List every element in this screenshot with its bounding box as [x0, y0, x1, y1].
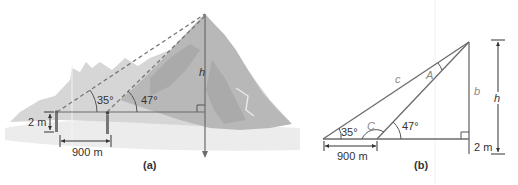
angle-arc-A: [438, 63, 442, 70]
observer-2-head: [106, 111, 110, 115]
height-label-a: h: [199, 66, 205, 78]
arrow-down-icon-b: [496, 148, 500, 152]
figure-b: 35° 47° C A c b 2 m h 900 m (b): [323, 40, 505, 171]
height-arrow-icon: [202, 151, 208, 158]
angle-47-label-a: 47°: [141, 94, 158, 106]
right-angle-icon-b: [461, 132, 469, 139]
distance-label-a: 900 m: [72, 146, 103, 158]
angle-35-label-a: 35°: [97, 94, 114, 106]
eye-height-label-a: 2 m: [28, 116, 46, 128]
observer-1: [55, 113, 58, 132]
observer-2: [106, 115, 109, 134]
angle-C-label: C: [367, 120, 375, 132]
sight-line-47-b: [377, 42, 469, 139]
side-c-label: c: [395, 73, 401, 85]
caption-a: (a): [143, 159, 157, 171]
arrow-up-icon-b: [496, 42, 500, 46]
angle-A-label: A: [425, 69, 433, 81]
diagram-canvas: 2 m 900 m 35° 47° h (a) 35° 47° C A c: [0, 0, 518, 185]
angle-arc-47-b: [393, 122, 401, 139]
arrow-left-icon-b: [325, 144, 329, 148]
angle-35-label-b: 35°: [341, 126, 358, 138]
height-label-b: h: [494, 92, 500, 104]
distance-label-b: 900 m: [337, 150, 368, 162]
eye-height-label-b: 2 m: [474, 141, 492, 153]
arrow-right-icon-b: [372, 144, 376, 148]
figure-a: 2 m 900 m 35° 47° h (a): [5, 14, 300, 171]
side-b-label: b: [474, 85, 480, 97]
observer-1-head: [55, 110, 59, 114]
angle-47-label-b: 47°: [402, 120, 419, 132]
caption-b: (b): [414, 159, 428, 171]
